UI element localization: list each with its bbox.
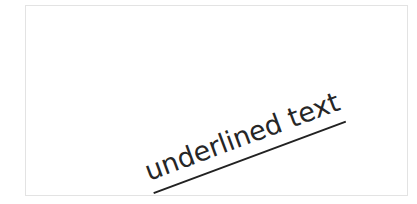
- figure-frame: underlined text: [25, 5, 408, 196]
- underlined-text-label: underlined text: [141, 89, 343, 186]
- rotated-text-group: underlined text: [141, 89, 346, 194]
- figure-canvas: underlined text: [0, 0, 417, 204]
